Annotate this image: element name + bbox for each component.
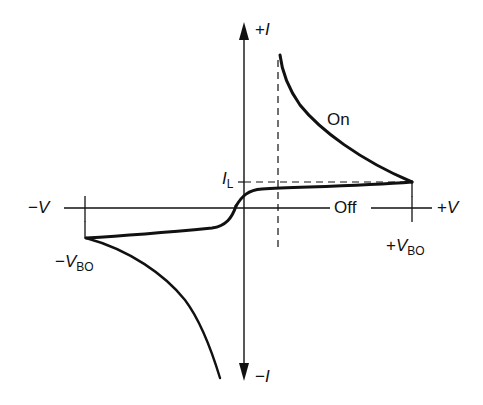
negative-current-axis-label: −I — [255, 368, 270, 385]
positive-voltage-axis-label: +V — [437, 199, 458, 216]
on-state-label: On — [327, 111, 350, 128]
negative-off-branch — [86, 206, 236, 238]
latching-current-label: IL — [222, 170, 233, 187]
up-arrow-icon — [239, 22, 249, 40]
negative-breakover-voltage-label: −VBO — [55, 253, 94, 270]
characteristic-curve — [85, 55, 412, 378]
off-state-label: Off — [334, 199, 356, 216]
voltage-axis — [64, 196, 432, 222]
iv-characteristic-diagram — [0, 0, 483, 405]
negative-voltage-axis-label: −V — [28, 199, 49, 216]
down-arrow-icon — [239, 363, 249, 381]
positive-off-branch — [236, 182, 412, 206]
positive-breakover-voltage-label: +VBO — [386, 237, 425, 254]
positive-current-axis-label: +I — [255, 21, 270, 38]
negative-on-branch — [86, 238, 220, 378]
reference-lines — [244, 60, 410, 248]
